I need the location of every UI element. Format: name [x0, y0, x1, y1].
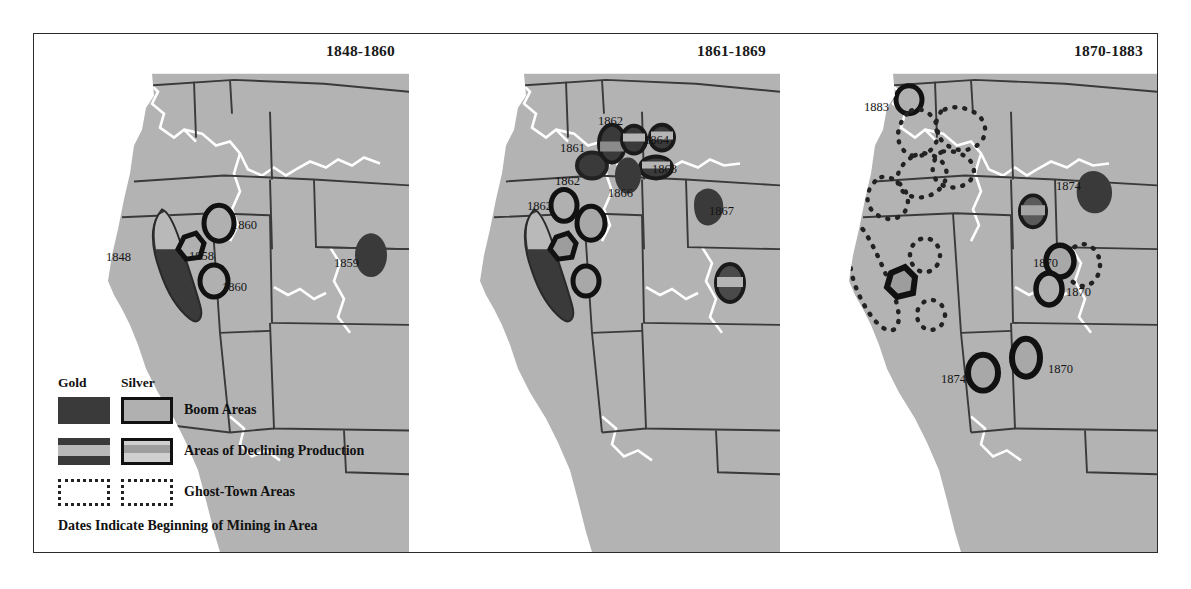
swatch-gold-boom [58, 397, 110, 424]
landmass [849, 74, 1157, 552]
date-label: 1866 [608, 186, 633, 201]
marker-1862-virginia-city [622, 126, 646, 154]
date-label: 1883 [864, 100, 889, 115]
date-label: 1870 [1048, 362, 1073, 377]
swatch-silver-boom [121, 397, 173, 424]
date-label: 1864 [644, 133, 669, 148]
marker-nevada-north [577, 206, 605, 240]
map-graphic-panel-3 [783, 34, 1157, 552]
date-label: 1858 [189, 249, 214, 264]
date-label: 1862 [598, 114, 623, 129]
map-graphic-panel-2 [412, 34, 780, 552]
marker-1870-colorado-south [1036, 273, 1062, 305]
legend-row-declining: Areas of Declining Production [58, 434, 364, 468]
map-panel-1861-1869: 1861-1869 186218611864186318621866186218… [412, 34, 780, 552]
date-label: 1867 [709, 204, 734, 219]
legend-label-boom: Boom Areas [184, 402, 256, 418]
date-label: 1863 [652, 162, 677, 177]
marker-new-mexico-declining [716, 264, 744, 302]
marker-colorado-1859 [355, 233, 387, 277]
marker-utah-declining [1020, 195, 1046, 227]
date-label: 1870 [1033, 256, 1058, 271]
legend-heading-silver: Silver [121, 375, 191, 391]
date-label: 1861 [560, 141, 585, 156]
figure-page: 1848-1860 18481860185818601859 [0, 0, 1191, 589]
swatch-gold-declining [58, 438, 110, 465]
date-label: 1870 [1066, 285, 1091, 300]
marker-1874-arizona [968, 355, 998, 391]
panel-title: 1848-1860 [326, 42, 395, 60]
map-panel-1870-1883: 1870-1883 188318741870187018741870 [783, 34, 1157, 552]
legend-label-declining: Areas of Declining Production [184, 443, 364, 459]
marker-nevada-1860-north [204, 205, 234, 241]
date-label: 1860 [232, 218, 257, 233]
marker-comstock-1870s [887, 267, 915, 297]
legend-headings: Gold Silver [58, 375, 364, 391]
swatch-gold-ghost [58, 479, 110, 506]
marker-comstock-declining [550, 233, 576, 259]
marker-1870-new-mexico [1012, 339, 1040, 377]
panel-title: 1861-1869 [697, 42, 766, 60]
date-label: 1848 [106, 250, 131, 265]
marker-1862-nevada [551, 189, 577, 221]
swatch-silver-ghost [121, 479, 173, 506]
date-label: 1874 [1056, 179, 1081, 194]
marker-nevada-south [573, 266, 599, 296]
date-label: 1862 [555, 174, 580, 189]
date-label: 1862 [527, 199, 552, 214]
legend-note: Dates Indicate Beginning of Mining in Ar… [58, 518, 364, 534]
figure-frame: 1848-1860 18481860185818601859 [33, 33, 1158, 553]
legend-row-ghost: Ghost-Town Areas [58, 475, 364, 509]
date-label: 1874 [941, 372, 966, 387]
legend-row-boom: Boom Areas [58, 393, 364, 427]
swatch-silver-declining [121, 438, 173, 465]
marker-1883-coeur-dalene [896, 86, 922, 114]
date-label: 1859 [334, 256, 359, 271]
map-legend: Gold Silver Boom Areas Areas of Declinin… [58, 375, 364, 534]
legend-heading-gold: Gold [58, 375, 121, 391]
legend-label-ghost: Ghost-Town Areas [184, 484, 295, 500]
panel-title: 1870-1883 [1074, 42, 1143, 60]
date-label: 1860 [222, 280, 247, 295]
